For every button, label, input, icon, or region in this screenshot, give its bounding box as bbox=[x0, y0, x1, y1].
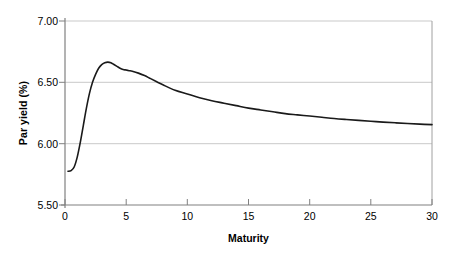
x-tick-label: 5 bbox=[123, 210, 129, 222]
x-tick-label: 15 bbox=[243, 210, 255, 222]
axis-lines bbox=[61, 18, 432, 208]
x-tick-label: 30 bbox=[426, 210, 438, 222]
par-yield-chart: Par yield (%) 7.00 6.50 6.00 5.50 bbox=[0, 0, 454, 255]
y-tick-label: 6.00 bbox=[24, 138, 58, 150]
y-tick-label: 5.50 bbox=[24, 199, 58, 211]
x-tick-label: 25 bbox=[365, 210, 377, 222]
grid-lines bbox=[65, 21, 432, 144]
y-tick-marks bbox=[59, 21, 65, 205]
x-tick-label: 10 bbox=[181, 210, 193, 222]
x-tick-label: 20 bbox=[304, 210, 316, 222]
y-axis-tick-labels: 7.00 6.50 6.00 5.50 bbox=[22, 0, 58, 255]
chart-canvas bbox=[0, 0, 454, 255]
y-tick-label: 7.00 bbox=[24, 15, 58, 27]
y-tick-label: 6.50 bbox=[24, 76, 58, 88]
yield-curve-line bbox=[68, 62, 432, 171]
x-tick-marks bbox=[65, 199, 432, 205]
x-axis-label: Maturity bbox=[65, 232, 432, 244]
x-tick-label: 0 bbox=[62, 210, 68, 222]
